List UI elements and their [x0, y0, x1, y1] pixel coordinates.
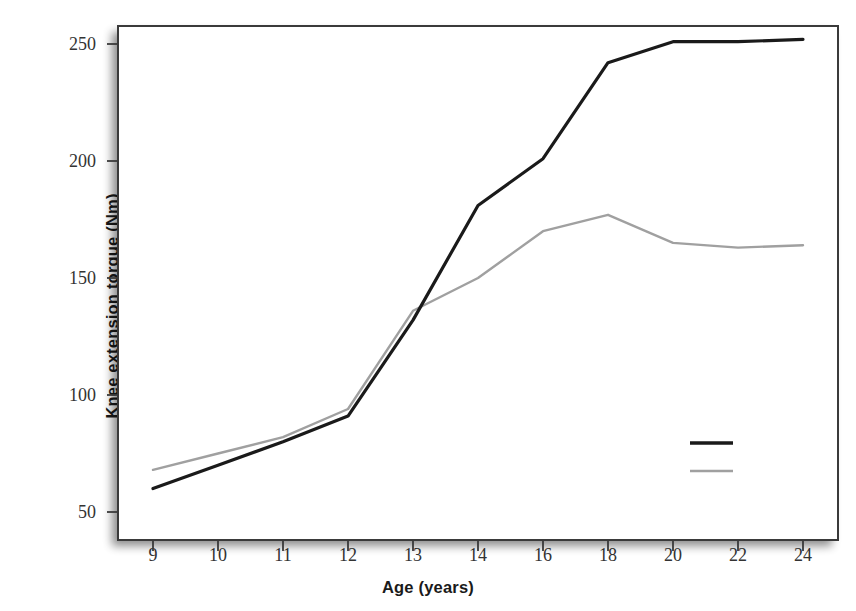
y-axis-ticks — [107, 44, 118, 512]
plot-canvas — [0, 0, 856, 611]
chart-figure: Knee extension torque (Nm) 250 200 150 1… — [0, 0, 856, 611]
x-axis-ticks — [153, 540, 803, 551]
